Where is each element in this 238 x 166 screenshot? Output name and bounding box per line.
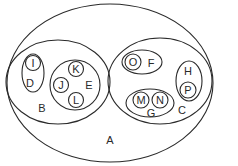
set-c-label: C [178,104,186,116]
set-o-label: O [129,56,138,68]
set-h: H P [176,61,202,101]
set-i-label: I [31,57,34,69]
set-k-label: K [72,63,80,75]
set-a-label: A [106,134,114,146]
set-b: B D I E K J L [6,40,110,124]
set-f: F O [122,50,162,74]
set-c: C F O H P G M N [108,38,212,124]
set-p-label: P [184,84,191,96]
nested-sets-diagram: A B D I E K J L C F [0,0,238,166]
set-n-label: N [156,94,164,106]
set-h-label: H [184,65,192,77]
set-d: D I [22,54,44,92]
set-b-label: B [38,102,45,114]
set-d-label: D [26,77,34,89]
set-c-boundary [108,38,212,124]
set-j-label: J [58,79,64,91]
set-e: E K J L [50,60,100,110]
set-f-label: F [148,57,155,69]
set-g: G M N [126,89,174,119]
set-e-label: E [85,79,92,91]
set-g-label: G [147,107,156,119]
set-l-label: L [73,94,79,106]
set-m-label: M [136,94,145,106]
